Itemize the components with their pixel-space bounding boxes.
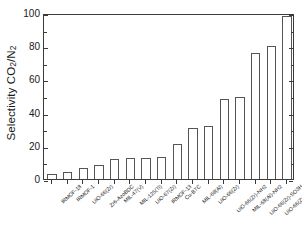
y-axis-tick-label: 80 [29,42,40,52]
y-axis-minor-tick-mark [291,98,294,99]
y-axis-tick-label: 100 [23,9,40,19]
y-axis-tick-mark [289,148,293,149]
y-axis-minor-tick-mark [291,65,294,66]
y-axis-title-subscript-1: 2 [8,62,18,67]
y-axis-tick-label: 20 [29,142,40,152]
bar [204,126,213,179]
bar [235,97,244,179]
bar [126,158,135,179]
bar [47,174,56,179]
y-axis-minor-tick-mark [291,131,294,132]
y-axis-minor-tick-mark [44,65,47,66]
y-axis-title-slash: /N [4,50,16,62]
y-axis-tick-label: 0 [34,175,40,185]
bar [110,159,119,179]
y-axis-tick-mark [44,81,48,82]
y-axis-tick-mark [289,15,293,16]
y-axis-title-prefix: Selectivity CO [4,67,16,141]
y-axis-minor-tick-mark [291,164,294,165]
bar [188,128,197,179]
y-axis-tick-mark [289,48,293,49]
y-axis-minor-tick-mark [44,32,47,33]
y-axis-title-subscript-2: 2 [8,46,18,51]
bar [220,99,229,180]
bar [267,46,276,179]
y-axis-tick-label: 60 [29,75,40,85]
y-axis-tick-mark [44,115,48,116]
y-axis-tick-mark [44,148,48,149]
y-axis-tick-mark [44,48,48,49]
y-axis-minor-tick-mark [44,98,47,99]
y-axis-minor-tick-mark [291,32,294,33]
y-axis-minor-tick-mark [44,164,47,165]
chart-figure: Selectivity CO2/N2 020406080100 IRMOF-18… [0,0,302,232]
y-axis-tick-mark [44,15,48,16]
y-axis-tick-mark [289,81,293,82]
bar [79,168,88,179]
bar-series [44,15,293,179]
bar [173,144,182,179]
bar [251,53,260,179]
plot-area [43,14,294,180]
y-axis-tick-mark [289,115,293,116]
y-axis-minor-tick-mark [44,131,47,132]
bar [157,157,166,179]
y-axis-tick-labels: 020406080100 [18,14,40,180]
x-axis-tick-labels: IRMOF-18IRMOF-1UiO-66(Zr)Zr6-AzoBDCMIL-4… [43,184,294,232]
bar [63,172,72,179]
bar [141,158,150,179]
y-axis-title: Selectivity CO2/N2 [4,46,18,141]
bar [94,165,103,179]
y-axis-tick-label: 40 [29,109,40,119]
